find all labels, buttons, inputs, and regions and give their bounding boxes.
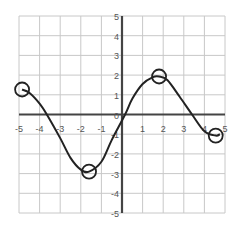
x-tick-label: -1 [97, 124, 105, 134]
x-tick-label: -2 [77, 124, 85, 134]
y-tick-label: 2 [114, 71, 119, 81]
x-tick-label: 5 [222, 124, 227, 134]
point-markers [15, 69, 223, 178]
x-tick-label: -5 [15, 124, 23, 134]
y-tick-label: 4 [114, 32, 119, 42]
x-tick-label: 1 [140, 124, 145, 134]
y-tick-label: -5 [111, 209, 119, 219]
function-graph: -5-4-3-2-112345 -5-4-3-2-1012345 [0, 0, 239, 229]
y-tick-label: 0 [114, 111, 119, 121]
x-tick-label: -4 [36, 124, 44, 134]
y-tick-label: -3 [111, 170, 119, 180]
axes [19, 16, 225, 213]
y-tick-label: 3 [114, 51, 119, 61]
y-tick-label: 5 [114, 12, 119, 22]
y-tick-label: -4 [111, 189, 119, 199]
y-tick-label: 1 [114, 91, 119, 101]
y-tick-label: -2 [111, 150, 119, 160]
x-tick-label: 2 [161, 124, 166, 134]
x-tick-label: 3 [181, 124, 186, 134]
